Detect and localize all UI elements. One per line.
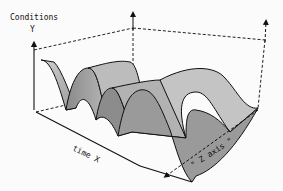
x-axis-label: time X <box>71 144 101 165</box>
y-axis-letter: Y <box>30 25 35 34</box>
y-axis-title: Conditions <box>10 13 58 22</box>
right-vertical-arrow <box>265 22 266 42</box>
wave-surface <box>41 60 258 182</box>
3d-surface-diagram: Conditions Y time X " Z axis " <box>0 0 283 191</box>
